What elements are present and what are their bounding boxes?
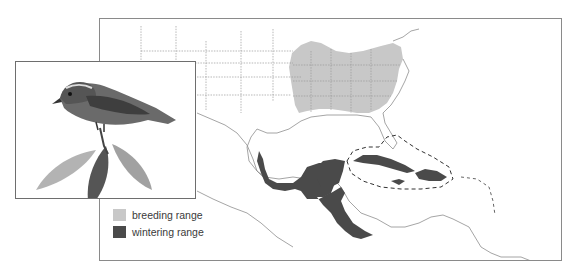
legend-item-wintering: wintering range	[113, 224, 204, 239]
bird-drawing	[16, 62, 196, 199]
wintering-range-yucatan	[317, 159, 345, 187]
wintering-range-swatch-icon	[113, 226, 126, 238]
bird-illustration	[15, 61, 196, 199]
legend: breeding range wintering range	[113, 207, 204, 241]
breeding-range-region	[289, 41, 403, 113]
legend-item-breeding: breeding range	[113, 207, 204, 222]
leaf-right	[112, 144, 152, 190]
bird-eye	[68, 92, 72, 96]
legend-label-breeding: breeding range	[132, 209, 203, 221]
breeding-range-swatch-icon	[113, 209, 126, 221]
lesser-antilles-boundary	[461, 177, 495, 215]
legend-label-wintering: wintering range	[132, 226, 204, 238]
wintering-range-jamaica	[391, 179, 405, 185]
wintering-range-hispaniola	[415, 169, 447, 181]
wintering-range-cuba	[353, 155, 415, 173]
wintering-range-mainland	[257, 151, 373, 239]
leaf-left	[36, 150, 96, 190]
